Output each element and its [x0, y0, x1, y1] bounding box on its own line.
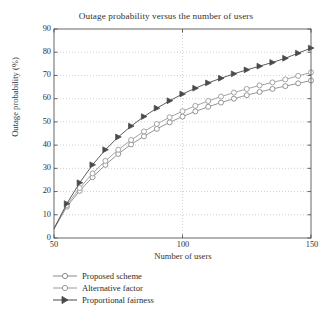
- legend-item[interactable]: Proposed scheme: [52, 270, 154, 282]
- legend-label: Alternative factor: [82, 283, 143, 293]
- data-point-marker: [103, 158, 108, 163]
- data-point-marker: [296, 50, 302, 56]
- data-point-marker: [180, 91, 186, 97]
- legend-item[interactable]: Proportional fairness: [52, 294, 154, 306]
- data-point-marker: [283, 55, 289, 61]
- data-point-marker: [77, 180, 83, 186]
- data-point-marker: [283, 77, 288, 82]
- data-point-marker: [231, 71, 237, 77]
- data-point-marker: [219, 100, 224, 105]
- data-point-marker: [219, 94, 224, 99]
- data-point-marker: [231, 90, 236, 95]
- chart-legend: Proposed scheme Alternative factor Propo…: [52, 270, 154, 306]
- data-point-marker: [154, 121, 159, 126]
- data-point-marker: [206, 98, 211, 103]
- data-point-marker: [193, 85, 199, 91]
- data-point-marker: [154, 105, 160, 111]
- legend-label: Proposed scheme: [82, 271, 142, 281]
- data-point-marker: [270, 60, 276, 66]
- data-point-marker: [270, 86, 275, 91]
- data-point-marker: [257, 83, 262, 88]
- data-point-marker: [193, 109, 198, 114]
- data-point-marker: [244, 93, 249, 98]
- data-point-marker: [206, 104, 211, 109]
- data-point-marker: [257, 63, 263, 69]
- data-point-marker: [141, 129, 146, 134]
- gridlines: [54, 29, 311, 238]
- data-point-marker: [257, 89, 262, 94]
- data-point-marker: [218, 75, 224, 81]
- data-point-marker: [180, 109, 185, 114]
- legend-marker-circle-open: [52, 270, 78, 282]
- data-series-layer: [54, 45, 314, 229]
- data-point-marker: [167, 115, 172, 120]
- data-point-marker: [244, 67, 250, 73]
- data-point-marker: [283, 84, 288, 89]
- data-point-marker: [129, 138, 134, 143]
- legend-item[interactable]: Alternative factor: [52, 282, 154, 294]
- data-point-marker: [167, 120, 172, 125]
- legend-marker-circle-open: [52, 282, 78, 294]
- data-point-marker: [154, 126, 159, 131]
- data-point-marker: [193, 103, 198, 108]
- series-line: [54, 48, 311, 229]
- chart-figure: Outage probability versus the number of …: [0, 0, 332, 321]
- data-point-marker: [90, 171, 95, 176]
- legend-marker-triangle-right-filled: [52, 294, 78, 306]
- data-point-marker: [270, 80, 275, 85]
- data-point-marker: [116, 147, 121, 152]
- data-point-marker: [141, 134, 146, 139]
- data-point-marker: [244, 86, 249, 91]
- data-point-marker: [296, 81, 301, 86]
- data-point-marker: [296, 73, 301, 78]
- data-point-marker: [206, 80, 212, 86]
- data-point-marker: [141, 114, 147, 120]
- data-point-marker: [180, 114, 185, 119]
- plot-area: [0, 0, 332, 321]
- data-point-marker: [231, 96, 236, 101]
- legend-label: Proportional fairness: [82, 295, 154, 305]
